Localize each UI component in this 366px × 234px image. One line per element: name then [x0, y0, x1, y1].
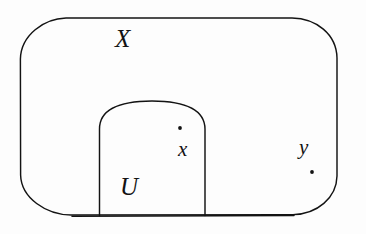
label-space-X: X	[115, 26, 130, 51]
label-point-y: y	[299, 137, 308, 158]
topology-diagram-figure: X U x y	[0, 0, 366, 234]
outer-region-X-boundary	[20, 18, 337, 215]
label-open-set-U: U	[120, 174, 138, 199]
inner-region-U-boundary	[100, 101, 206, 216]
diagram-canvas	[0, 0, 366, 234]
label-point-x: x	[178, 139, 187, 160]
outer-region-bottom-edge	[72, 215, 294, 216]
point-x-dot	[178, 126, 182, 130]
point-y-dot	[310, 170, 314, 174]
